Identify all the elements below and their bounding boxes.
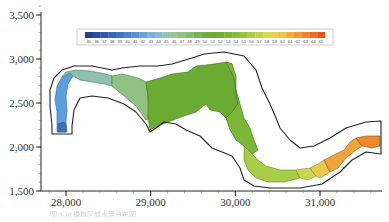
region-west-leg-dark (58, 122, 66, 132)
x-tick-label: 30,000 (220, 196, 251, 208)
legend-label: 39 (117, 39, 122, 44)
legend-colorbar (85, 32, 325, 38)
legend-label: 55 (241, 39, 246, 44)
legend-label: 51 (210, 39, 215, 44)
legend-label: 60 (280, 39, 285, 44)
region-east-reach (324, 138, 362, 172)
legend-label: 40 (125, 39, 130, 44)
legend-swatch (232, 32, 240, 38)
legend-label: 47 (179, 39, 184, 44)
x-tick-label: 28,000 (51, 196, 82, 208)
legend-label: 46 (172, 39, 177, 44)
legend-swatch (286, 32, 294, 38)
legend-label: 53 (226, 39, 231, 44)
legend-label: 35 (86, 39, 91, 44)
legend-swatch (85, 32, 93, 38)
legend-swatch (317, 32, 325, 38)
legend-swatch (178, 32, 186, 38)
legend-swatch (131, 32, 139, 38)
legend-swatch (186, 32, 194, 38)
legend-label: 58 (265, 39, 270, 44)
legend-swatch (271, 32, 279, 38)
region-main-body (146, 62, 238, 130)
legend-label: 63 (303, 39, 308, 44)
region-transition (112, 74, 150, 120)
legend-swatch (100, 32, 108, 38)
legend-swatch (255, 32, 263, 38)
legend-swatch (240, 32, 248, 38)
legend-label: 44 (156, 39, 161, 44)
legend-swatch (279, 32, 287, 38)
x-tick-label: 31,000 (305, 196, 336, 208)
legend-label: 64 (311, 39, 316, 44)
legend-swatch (193, 32, 201, 38)
x-tick-label: 29,000 (136, 196, 167, 208)
legend-swatch (209, 32, 217, 38)
legend-swatch (147, 32, 155, 38)
legend-label: 49 (195, 39, 200, 44)
legend-label: 54 (234, 39, 239, 44)
legend-swatch (310, 32, 318, 38)
legend-label: 45 (164, 39, 169, 44)
legend-swatch (294, 32, 302, 38)
legend-swatch (116, 32, 124, 38)
legend-label: 37 (102, 39, 107, 44)
legend-swatch (155, 32, 163, 38)
legend: 3536373839404142434445464748495051525354… (77, 29, 333, 45)
legend-swatch (170, 32, 178, 38)
legend-label: 41 (133, 39, 138, 44)
legend-label: 62 (296, 39, 301, 44)
y-tick-label: 2,500 (9, 97, 34, 109)
legend-swatch (139, 32, 147, 38)
legend-label: 65 (319, 39, 324, 44)
legend-swatch (217, 32, 225, 38)
legend-swatch (248, 32, 256, 38)
y-tick-label: 3,000 (9, 53, 34, 65)
x-axis: 28,00029,00030,00031,000 (41, 191, 382, 208)
legend-label: 43 (148, 39, 153, 44)
legend-label: 42 (141, 39, 146, 44)
legend-label: 57 (257, 39, 262, 44)
legend-label: 56 (249, 39, 254, 44)
contour-chart: 3536373839404142434445464748495051525354… (0, 0, 389, 222)
legend-swatch (224, 32, 232, 38)
legend-label: 50 (203, 39, 208, 44)
legend-swatch (263, 32, 271, 38)
legend-label: 59 (272, 39, 277, 44)
legend-tick-labels: 3536373839404142434445464748495051525354… (86, 39, 324, 44)
legend-label: 48 (187, 39, 192, 44)
y-axis: 1,5002,0002,5003,0003,500 (9, 6, 41, 197)
y-tick-label: 2,000 (9, 141, 34, 153)
y-tick-label: 3,500 (9, 9, 34, 21)
legend-swatch (162, 32, 170, 38)
legend-swatch (124, 32, 132, 38)
legend-label: 52 (218, 39, 223, 44)
legend-label: 36 (94, 39, 99, 44)
legend-swatch (201, 32, 209, 38)
y-tick-label: 1,500 (9, 185, 34, 197)
legend-swatch (302, 32, 310, 38)
legend-swatch (108, 32, 116, 38)
legend-label: 61 (288, 39, 293, 44)
temperature-regions (55, 62, 380, 182)
figure-caption: 图 3-10 模拟区域水温分布图 (50, 209, 350, 217)
legend-swatch (93, 32, 101, 38)
legend-label: 38 (110, 39, 115, 44)
